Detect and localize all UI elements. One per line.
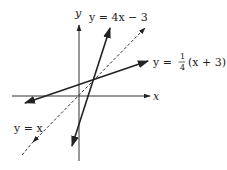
label-y-equals-4x-minus-3: y = 4x − 3 bbox=[88, 11, 148, 24]
x-axis-label: x bbox=[153, 90, 160, 103]
line-y-equals-4x-minus-3 bbox=[72, 28, 110, 146]
label-fraction-numerator: 1 bbox=[180, 52, 185, 61]
line-y-equals-quarter-x-plus-3 bbox=[25, 61, 148, 103]
inverse-functions-diagram: y x y = 4x − 3 y = 1 4 (x + 3) y = x bbox=[0, 0, 227, 170]
label-y-equals-x: y = x bbox=[13, 122, 43, 135]
label-y-equals-quarter-prefix: y = bbox=[152, 56, 172, 69]
label-y-equals-quarter-suffix: (x + 3) bbox=[188, 56, 226, 69]
y-axis-label: y bbox=[74, 7, 82, 20]
line-y-equals-x bbox=[33, 28, 145, 142]
label-fraction-denominator: 4 bbox=[180, 63, 185, 72]
line-y-equals-x-tail bbox=[22, 142, 33, 155]
